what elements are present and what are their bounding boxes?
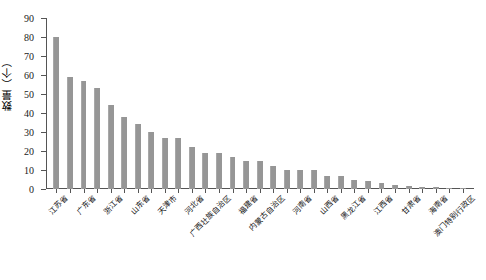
bar: [94, 88, 100, 189]
x-axis-category-label: 甘肃省: [398, 192, 422, 216]
y-axis-tick-label: 0: [29, 184, 34, 195]
y-axis-tick-label: 90: [24, 13, 34, 24]
bar: [257, 161, 263, 190]
bar: [230, 157, 236, 189]
y-axis-tick: 0: [41, 189, 46, 190]
bar: [351, 180, 357, 190]
bar: [284, 170, 290, 189]
y-axis-tick: 70: [41, 56, 46, 57]
bar: [175, 138, 181, 189]
y-axis-tick: 60: [41, 75, 46, 76]
bar: [243, 161, 249, 190]
y-axis-tick-label: 20: [24, 146, 34, 157]
x-axis-category-label: 福建省: [235, 192, 259, 216]
bar: [121, 117, 127, 189]
x-axis-category-label: 海南省: [425, 192, 449, 216]
bar: [148, 132, 154, 189]
x-axis-category-label: 广东省: [73, 192, 97, 216]
bar: [162, 138, 168, 189]
x-axis-category-label: 江苏省: [46, 192, 70, 216]
x-axis-category-label: 山东省: [127, 192, 151, 216]
bar-chart: 数量（个） 0102030405060708090 江苏省广东省浙江省山东省天津…: [0, 0, 486, 280]
y-axis-tick: 50: [41, 94, 46, 95]
y-axis-line: [46, 18, 47, 189]
y-axis-tick: 10: [41, 170, 46, 171]
y-axis-tick-label: 70: [24, 51, 34, 62]
bar: [202, 153, 208, 189]
bar: [392, 185, 398, 189]
y-axis-title: 数量（个）: [2, 56, 18, 111]
x-axis-category-label: 浙江省: [100, 192, 124, 216]
plot-area: 0102030405060708090: [46, 18, 474, 189]
y-axis-tick-label: 40: [24, 108, 34, 119]
y-axis-tick: 30: [41, 132, 46, 133]
bar: [108, 105, 114, 189]
bar: [406, 186, 412, 189]
y-axis-tick-label: 50: [24, 89, 34, 100]
y-axis-tick: 40: [41, 113, 46, 114]
y-axis-tick-label: 60: [24, 70, 34, 81]
bar: [53, 37, 59, 189]
bar: [216, 153, 222, 189]
x-axis-category-label: 江西省: [371, 192, 395, 216]
x-axis-category-label: 黑龙江省: [338, 192, 368, 222]
bar: [135, 124, 141, 189]
bar: [460, 188, 466, 189]
bar: [81, 81, 87, 189]
bar: [270, 166, 276, 189]
bar: [446, 188, 452, 189]
y-axis-tick-label: 10: [24, 165, 34, 176]
x-axis-category-label: 河南省: [290, 192, 314, 216]
bar: [379, 183, 385, 189]
y-axis-tick-label: 80: [24, 32, 34, 43]
bar: [297, 170, 303, 189]
y-axis-tick: 80: [41, 37, 46, 38]
bar: [433, 187, 439, 189]
x-axis-category-label: 天津市: [154, 192, 178, 216]
bar: [365, 181, 371, 189]
bar: [338, 176, 344, 189]
y-axis-tick-label: 30: [24, 127, 34, 138]
bar: [189, 147, 195, 189]
y-axis-tick: 20: [41, 151, 46, 152]
bar: [324, 176, 330, 189]
bar: [419, 187, 425, 189]
x-axis-category-label: 河北省: [181, 192, 205, 216]
x-axis-label-group: 江苏省广东省浙江省山东省天津市河北省广西壮族自治区福建省内蒙古自治区河南省山西省…: [46, 192, 486, 280]
y-axis-tick: 90: [41, 18, 46, 19]
bar: [311, 170, 317, 189]
bar: [67, 77, 73, 189]
